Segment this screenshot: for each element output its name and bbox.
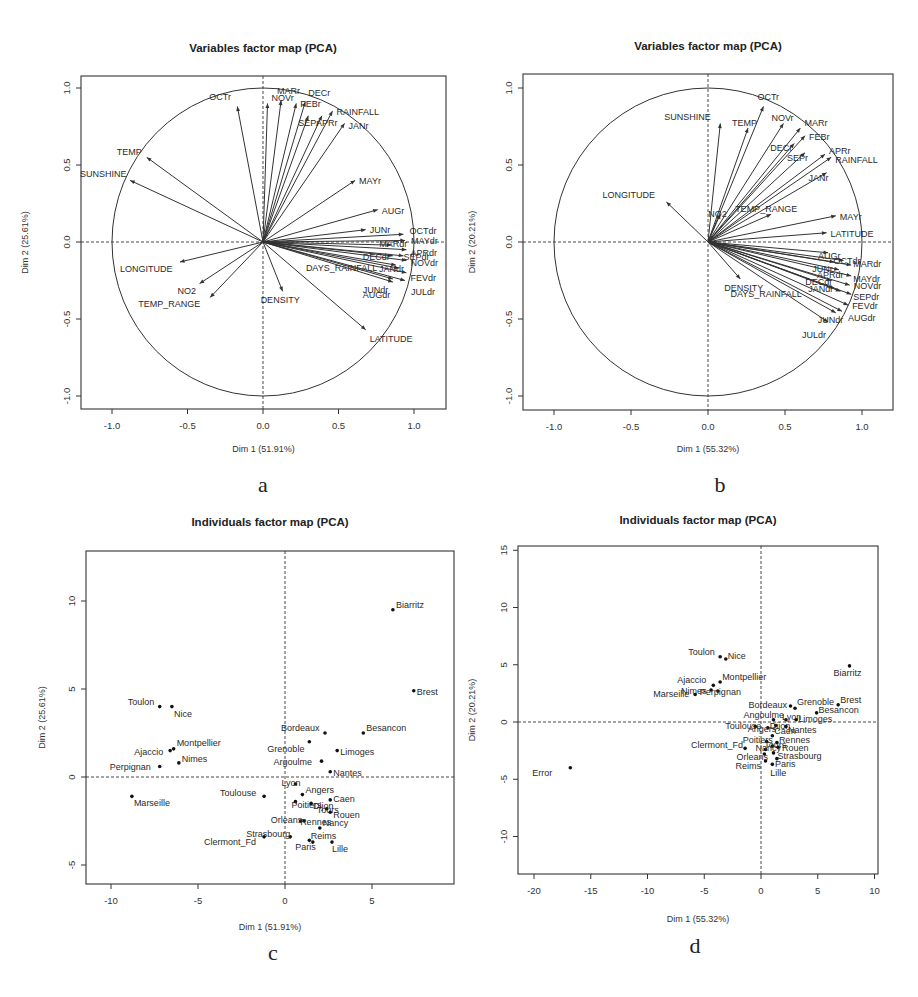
- arrowhead-icon: [350, 180, 355, 184]
- arrowhead-icon: [822, 231, 827, 235]
- variable-label: FEVdr: [410, 273, 436, 283]
- y-tick-label: 10: [498, 602, 509, 613]
- individual-label: Biarritz: [396, 600, 425, 610]
- variable-arrow: [263, 242, 366, 330]
- individual-point: [301, 793, 305, 797]
- x-tick-label: 1.0: [407, 420, 420, 431]
- individual-label: Paris: [295, 842, 316, 852]
- individual-point: [362, 731, 366, 735]
- variable-label: JUNdr: [818, 315, 844, 325]
- individual-point: [412, 689, 416, 693]
- y-tick-label: 5: [498, 662, 509, 667]
- individual-label: Toulon: [128, 697, 155, 707]
- individual-point: [391, 608, 395, 612]
- individual-label: Nantes: [333, 768, 362, 778]
- arrowhead-icon: [760, 106, 764, 111]
- individual-label: Perpignan: [700, 687, 741, 697]
- variable-label: JULdr: [411, 287, 435, 297]
- y-tick-label: 0.5: [61, 158, 72, 171]
- individual-label: Bordeaux: [281, 723, 320, 733]
- individual-label: Caen: [333, 794, 355, 804]
- variable-label: SUNSHINE: [664, 112, 711, 122]
- variable-arrow: [237, 106, 263, 242]
- variable-arrow: [180, 242, 263, 262]
- individual-point: [693, 693, 697, 697]
- arrowhead-icon: [399, 233, 404, 237]
- x-tick-label: -15: [584, 885, 598, 896]
- variable-label: AUGdr: [848, 313, 876, 323]
- variable-label: FEBr: [809, 132, 830, 142]
- individual-label: Limoges: [340, 747, 375, 757]
- arrowhead-icon: [265, 103, 269, 108]
- variable-label: NO2: [708, 209, 727, 219]
- individual-point: [262, 795, 266, 799]
- individual-label: Paris: [775, 759, 796, 769]
- y-tick-label: 0: [498, 719, 509, 724]
- individual-point: [771, 763, 775, 767]
- panel-b: Variables factor map (PCA)-1.0-0.50.00.5…: [467, 40, 893, 497]
- y-tick-label: 0.5: [503, 158, 514, 171]
- individual-label: Orleans: [271, 815, 303, 825]
- variable-label: FEVdr: [852, 301, 878, 311]
- variable-label: JULdr: [802, 330, 826, 340]
- variable-label: NOVdr: [410, 258, 438, 268]
- individual-label: Nice: [174, 709, 192, 719]
- variable-arrow: [666, 202, 708, 242]
- individual-label: Clermont_Fd: [204, 837, 256, 847]
- individual-label: Angers: [305, 785, 334, 795]
- y-tick-label: -0.5: [61, 311, 72, 327]
- individual-point: [764, 759, 768, 763]
- individual-point: [569, 766, 573, 770]
- arrowhead-icon: [373, 209, 378, 213]
- individual-label: Limoges: [798, 714, 833, 724]
- panel-letter: d: [690, 933, 701, 958]
- y-tick-label: -10: [498, 830, 509, 844]
- variable-arrow: [263, 116, 308, 242]
- individual-label: Lille: [770, 768, 786, 778]
- individual-point: [320, 759, 324, 763]
- y-tick-label: -0.5: [503, 311, 514, 327]
- individual-point: [743, 747, 747, 751]
- x-tick-label: 0: [282, 895, 287, 906]
- panel-letter: a: [258, 472, 268, 497]
- y-axis-label: Dim 2 (25.61%): [20, 211, 30, 274]
- variable-label: AUGr: [382, 206, 405, 216]
- variable-label: MARr: [277, 86, 300, 96]
- arrowhead-icon: [745, 128, 749, 133]
- individual-point: [177, 761, 181, 765]
- x-tick-label: -0.5: [179, 420, 195, 431]
- arrowhead-icon: [826, 157, 831, 161]
- individual-point: [328, 810, 332, 814]
- variable-label: NOVr: [771, 113, 793, 123]
- variable-label: SEPr: [787, 153, 808, 163]
- y-tick-label: 5: [66, 686, 77, 691]
- variable-label: RAINFALL: [835, 155, 878, 165]
- individual-point: [308, 740, 312, 744]
- individual-label: Marseille: [653, 689, 689, 699]
- individual-label: Bordeaux: [749, 700, 788, 710]
- x-tick-label: -20: [527, 885, 541, 896]
- chart-title: Variables factor map (PCA): [189, 42, 337, 54]
- variable-label: LATITUDE: [370, 334, 413, 344]
- individual-label: Error: [532, 768, 552, 778]
- individual-label: Reims: [736, 761, 762, 771]
- x-tick-label: 5: [369, 895, 374, 906]
- individual-label: Nice: [728, 651, 746, 661]
- variable-label: AUGdr: [363, 290, 391, 300]
- x-tick-label: -5: [194, 895, 202, 906]
- chart-title: Variables factor map (PCA): [634, 40, 782, 52]
- arrowhead-icon: [200, 279, 205, 283]
- variable-label: MARdr: [853, 259, 881, 269]
- x-tick-label: 0: [758, 885, 763, 896]
- variable-arrow: [263, 111, 332, 242]
- variable-arrow: [147, 157, 263, 242]
- y-axis-label: Dim 2 (20.21%): [467, 211, 477, 274]
- individual-point: [328, 770, 332, 774]
- chart-title: Individuals factor map (PCA): [191, 516, 348, 528]
- individual-label: Biarritz: [834, 668, 863, 678]
- arrowhead-icon: [779, 123, 783, 128]
- arrowhead-icon: [846, 291, 851, 295]
- y-axis-label: Dim 2 (20.21%): [467, 679, 477, 742]
- chart-title: Individuals factor map (PCA): [619, 514, 776, 526]
- arrowhead-icon: [147, 157, 152, 161]
